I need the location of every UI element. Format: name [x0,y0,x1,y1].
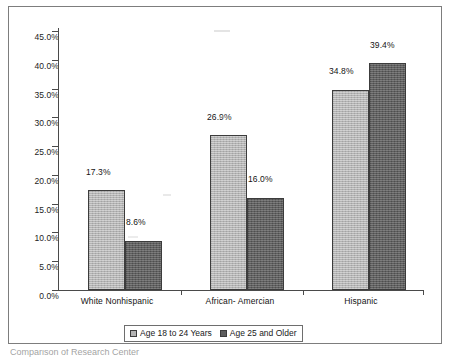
bar-white-nonhispanic-age25plus [125,241,162,291]
y-axis-tick [52,290,58,291]
bar-white-nonhispanic-age18to24 [88,190,125,290]
y-axis-tick-label: 45.0% [13,32,59,42]
y-axis-tick-label: 25.0% [13,147,59,157]
y-axis-tick-label: 20.0% [13,176,59,186]
data-label-hispanic-age25plus: 39.4% [370,40,395,50]
y-axis-tick-label: 40.0% [13,61,59,71]
x-axis-category-label-white-nonhispanic: White Nonhispanic [67,296,167,306]
data-label-white-nonhispanic-age25plus: 8.6% [126,217,146,227]
y-axis-tick-label: 10.0% [13,233,59,243]
legend-item-age-25-and-older: Age 25 and Older [220,328,297,339]
x-axis-tick [423,290,424,295]
legend-label: Age 18 to 24 Years [140,328,212,339]
y-axis-tick-label: 15.0% [13,205,59,215]
data-label-african-american-age18to24: 26.9% [207,112,232,122]
legend-item-age-18-to-24: Age 18 to 24 Years [130,328,212,339]
figure-caption: Comparison of Research Center [10,349,310,361]
y-axis-tick-label: 30.0% [13,118,59,128]
bar-african-american-age25plus [247,198,284,290]
x-axis-line [58,290,424,291]
x-axis-category-label-hispanic: Hispanic [321,296,401,306]
y-axis-tick-label: 5.0% [13,262,59,272]
bar-hispanic-age18to24 [332,90,369,290]
legend-swatch-icon [220,330,227,337]
x-axis-tick [303,290,304,295]
y-axis-tick-label: 35.0% [13,90,59,100]
x-axis-category-label-african-american: African- Amercian [190,296,290,306]
figure-caption-text: Comparison of Research Center [10,349,310,357]
x-axis-tick [181,290,182,295]
bars-layer [58,24,424,290]
y-axis-tick-label: 0.0% [13,291,59,301]
legend-label: Age 25 and Older [230,328,297,339]
data-label-african-american-age25plus: 16.0% [248,174,273,184]
bar-hispanic-age25plus [369,63,406,290]
legend-swatch-icon [130,330,137,337]
data-label-hispanic-age18to24: 34.8% [329,66,354,76]
bar-african-american-age18to24 [210,135,247,290]
data-label-white-nonhispanic-age18to24: 17.3% [86,167,111,177]
chart-legend: Age 18 to 24 Years Age 25 and Older [124,325,303,342]
